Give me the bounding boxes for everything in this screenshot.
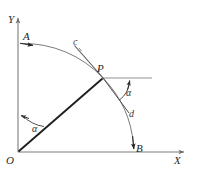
arrowhead-at-b [133,136,134,149]
radius-op [19,79,103,152]
curve-label-c: c [73,37,77,47]
point-label-p: P [97,63,104,74]
point-label-a: A [23,31,30,42]
point-label-b: B [136,143,143,154]
x-axis-label: X [174,155,181,166]
axes-group [18,18,184,152]
geometry-figure: Y X O A P B c d α α [0,0,200,181]
arc-a-to-p [22,43,104,78]
angle-label-p: α [126,88,131,98]
line-label-d: d [129,109,134,119]
angle-label-origin: α [32,124,37,134]
figure-canvas [0,0,200,181]
origin-label: O [6,155,14,166]
y-axis-label: Y [8,14,14,25]
